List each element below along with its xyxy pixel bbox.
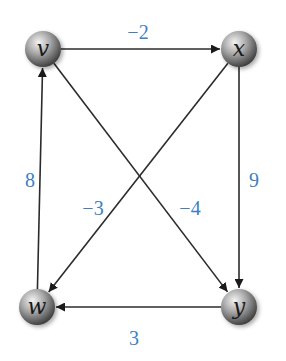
node-label: w (28, 294, 47, 319)
edge-weight-y-w: 3 (129, 327, 139, 349)
node-v: v (25, 31, 61, 67)
edges-layer (37, 49, 239, 307)
edge-weight-v-y: −4 (179, 197, 200, 219)
edge-weight-x-w: −3 (82, 197, 103, 219)
node-x: x (221, 31, 257, 67)
node-y: y (221, 289, 257, 325)
node-label: v (37, 36, 50, 61)
node-label: x (233, 36, 246, 61)
edge-weight-w-v: 8 (25, 169, 35, 191)
edge-weight-v-x: −2 (127, 21, 148, 43)
node-w: w (19, 289, 55, 325)
edge-weight-x-y: 9 (249, 169, 259, 191)
graph-diagram: −29−3−438 vxwy (0, 0, 286, 361)
node-label: y (232, 294, 246, 319)
edge-w-to-v (37, 68, 42, 289)
